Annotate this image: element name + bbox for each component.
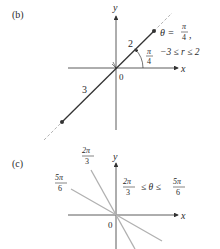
cond-left-den: 3 [126, 188, 130, 197]
endpoint-lower [60, 120, 64, 124]
theta-prefix: θ = [160, 27, 174, 38]
cond-right-num: 5π [173, 177, 182, 186]
angle-arc [135, 49, 143, 68]
ray-label-5pi-num: 5π [55, 173, 64, 182]
panel-b: (b) y x 0 2 3 π 4 θ = π 4 , −3 ≤ r ≤ 2 [12, 2, 200, 140]
origin-label: 0 [108, 220, 113, 230]
theta-suffix: , [189, 29, 192, 40]
theta-den: 4 [182, 33, 186, 42]
x-axis-label: x [180, 210, 186, 221]
origin-tick [112, 62, 116, 68]
polar-diagrams: (b) y x 0 2 3 π 4 θ = π 4 , −3 ≤ r ≤ 2 (… [0, 0, 220, 249]
panel-b-label: (b) [12, 9, 24, 21]
dashed-extension-lower [44, 122, 62, 140]
ray-label-5pi-den: 6 [58, 184, 62, 193]
r-range: −3 ≤ r ≤ 2 [160, 47, 200, 57]
y-axis-label: y [112, 151, 118, 162]
panel-c: (c) y x 0 2π 3 5π 6 2π 3 ≤ θ ≤ 5π 6 [12, 146, 186, 249]
ray-label-2pi-num: 2π [82, 146, 91, 155]
origin-label: 0 [119, 72, 124, 82]
cond-right-den: 6 [176, 188, 180, 197]
cond-middle: ≤ θ ≤ [141, 182, 161, 192]
y-axis-label: y [112, 2, 118, 13]
ray-label-2pi-den: 3 [85, 157, 89, 166]
panel-c-label: (c) [12, 158, 23, 170]
theta-num: π [182, 22, 187, 31]
length-label-3: 3 [82, 84, 87, 95]
endpoint-upper [152, 29, 156, 33]
polar-segment [62, 31, 154, 122]
cond-left-num: 2π [123, 177, 132, 186]
angle-num: π [147, 47, 152, 56]
x-axis-label: x [180, 63, 186, 74]
angle-den: 4 [147, 57, 151, 66]
length-label-2: 2 [128, 38, 133, 49]
